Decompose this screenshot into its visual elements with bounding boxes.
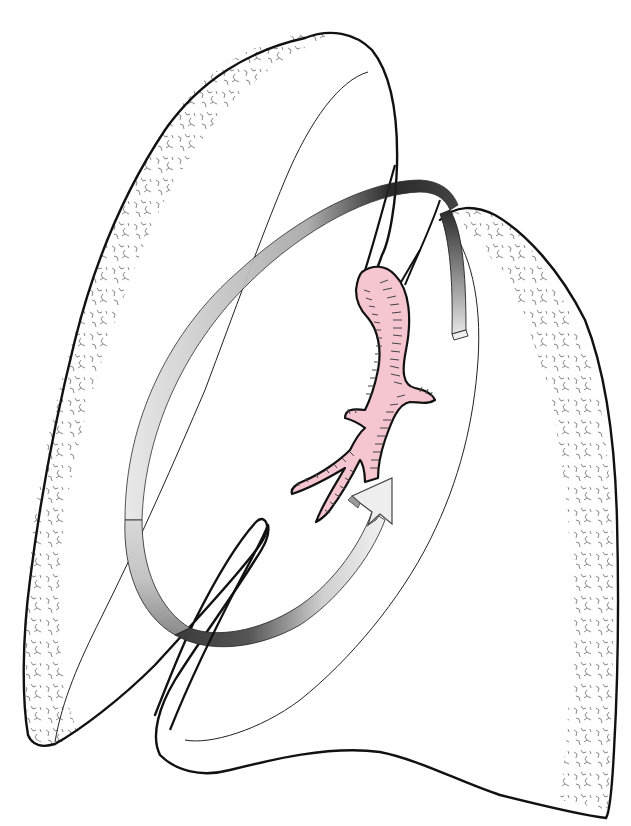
illustration-canvas bbox=[0, 0, 631, 826]
rotation-arrow bbox=[125, 180, 468, 647]
arrow-bottom-band bbox=[175, 512, 385, 647]
main-bronchus bbox=[292, 267, 435, 522]
arrow-left-band bbox=[125, 520, 190, 635]
lung-illustration: Lungs with bronchus and circular arrow bbox=[0, 0, 631, 826]
right-lung-texture bbox=[448, 210, 614, 810]
bronchus-body bbox=[292, 267, 435, 522]
arrow-top-band bbox=[125, 180, 458, 520]
arrow-right-tail bbox=[440, 210, 466, 334]
